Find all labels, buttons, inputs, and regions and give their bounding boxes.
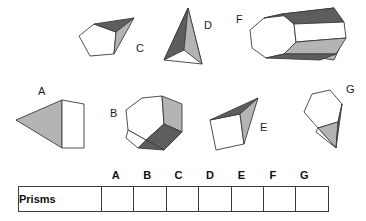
solid-g: G <box>296 88 356 156</box>
table-column-headers: A B C D E F G <box>100 168 320 182</box>
table-row: Prisms <box>19 187 329 212</box>
answer-cell-a[interactable] <box>102 187 134 212</box>
solid-e: E <box>206 96 268 154</box>
answer-cell-b[interactable] <box>134 187 166 212</box>
solid-c: C <box>76 14 146 60</box>
column-header-g: G <box>289 168 320 182</box>
answer-cell-e[interactable] <box>231 187 263 212</box>
solid-f-label: F <box>236 14 243 25</box>
solid-e-label: E <box>260 122 267 133</box>
row-label-prisms: Prisms <box>19 187 102 212</box>
answer-cell-c[interactable] <box>166 187 198 212</box>
column-header-e: E <box>226 168 257 182</box>
column-header-d: D <box>194 168 225 182</box>
prisms-answer-table: Prisms <box>18 186 329 212</box>
solid-a-face-white <box>62 100 84 148</box>
column-header-a: A <box>100 168 131 182</box>
solids-figure-area: C D <box>0 0 366 166</box>
solid-d: D <box>160 6 212 68</box>
answer-cell-f[interactable] <box>263 187 295 212</box>
column-header-b: B <box>131 168 162 182</box>
column-header-c: C <box>163 168 194 182</box>
answer-cell-d[interactable] <box>199 187 231 212</box>
solid-f: F <box>240 8 350 70</box>
solid-b: B <box>116 94 188 158</box>
solid-f-face-dark-band <box>282 8 344 24</box>
solid-a-face-light <box>16 100 62 148</box>
solid-c-label: C <box>136 43 144 54</box>
solid-d-label: D <box>204 20 212 31</box>
worksheet: C D <box>0 0 366 221</box>
answer-cell-g[interactable] <box>296 187 328 212</box>
solid-a-label: A <box>38 86 45 97</box>
solid-a: A <box>14 98 88 154</box>
solid-g-label: G <box>346 84 355 95</box>
column-header-f: F <box>257 168 288 182</box>
solid-b-label: B <box>110 108 117 119</box>
